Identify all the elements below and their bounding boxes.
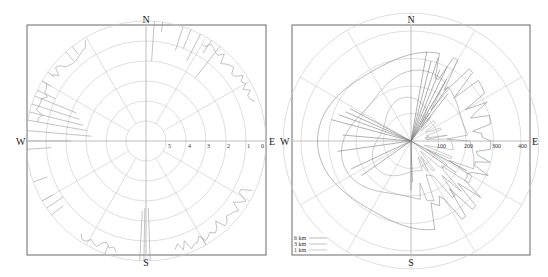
figure: N E S W 5 4 3 2 1 0 N E S W 100 200 300 …	[0, 0, 548, 277]
right-radial-ray	[411, 67, 447, 141]
left-horizon-spike	[30, 112, 83, 125]
left-horizon-spike	[140, 211, 143, 261]
left-tick-3: 3	[207, 143, 210, 149]
left-tick-0: 0	[261, 143, 264, 149]
left-horizon-spike	[195, 46, 220, 78]
left-horizon-spike	[51, 206, 63, 215]
right-radial-ray	[346, 112, 411, 141]
legend-label-1km: 1 km	[294, 247, 307, 253]
left-horizon-edge	[81, 234, 116, 253]
left-horizon-spike	[201, 236, 206, 245]
right-radial-ray	[411, 61, 431, 141]
left-horizon-spike	[187, 34, 201, 61]
left-horizon-spike	[42, 195, 52, 201]
left-horizon-spike	[26, 148, 51, 150]
right-radial-ray	[361, 141, 411, 176]
left-tick-2: 2	[227, 143, 230, 149]
right-north-label: N	[407, 14, 414, 25]
right-radial-ray	[411, 86, 448, 141]
left-horizon-spike	[28, 120, 87, 130]
right-tick-400: 400	[518, 143, 527, 149]
right-east-label: E	[532, 136, 538, 147]
right-radial-ray	[411, 70, 440, 141]
left-horizon-spike	[72, 46, 78, 54]
left-east-label: E	[269, 136, 275, 147]
right-spoke	[411, 141, 522, 205]
right-spoke	[300, 77, 411, 141]
left-tick-4: 4	[188, 143, 191, 149]
right-south-label: S	[408, 257, 414, 268]
right-spoke	[347, 30, 411, 141]
left-frame	[27, 25, 266, 255]
left-west-label: W	[16, 136, 26, 147]
left-polar-chart: N E S W 5 4 3 2 1 0	[16, 14, 275, 268]
left-horizon-edge	[175, 189, 252, 249]
left-horizon-spike	[48, 72, 55, 77]
right-polar-chart: N E S W 100 200 300 400 6 km 3 km 1 km	[280, 13, 539, 269]
right-spoke	[411, 141, 475, 252]
left-tick-5: 5	[168, 143, 171, 149]
left-horizon-spike	[144, 208, 145, 261]
left-south-label: S	[143, 257, 149, 268]
left-horizon-edge	[52, 40, 86, 75]
right-tick-300: 300	[492, 143, 501, 149]
right-tick-200: 200	[464, 143, 473, 149]
left-horizon-spike	[26, 131, 91, 137]
right-radial-ray	[411, 93, 448, 141]
left-horizon-spike	[175, 27, 183, 51]
left-tick-1: 1	[247, 143, 250, 149]
right-tick-100: 100	[437, 143, 446, 149]
left-horizon-spike	[161, 22, 162, 32]
left-horizon-spike	[183, 30, 190, 49]
left-north-label: N	[142, 14, 149, 25]
right-west-label: W	[280, 136, 290, 147]
left-horizon-spike	[203, 40, 211, 53]
left-horizon-spike	[148, 208, 150, 261]
left-horizon-spike	[66, 52, 74, 61]
legend: 6 km 3 km 1 km	[293, 234, 327, 254]
right-spoke	[300, 141, 411, 205]
right-spoke	[347, 141, 411, 252]
left-horizon-spike	[47, 197, 64, 208]
left-horizon-spike	[33, 177, 47, 182]
left-horizon-spike	[105, 246, 108, 254]
